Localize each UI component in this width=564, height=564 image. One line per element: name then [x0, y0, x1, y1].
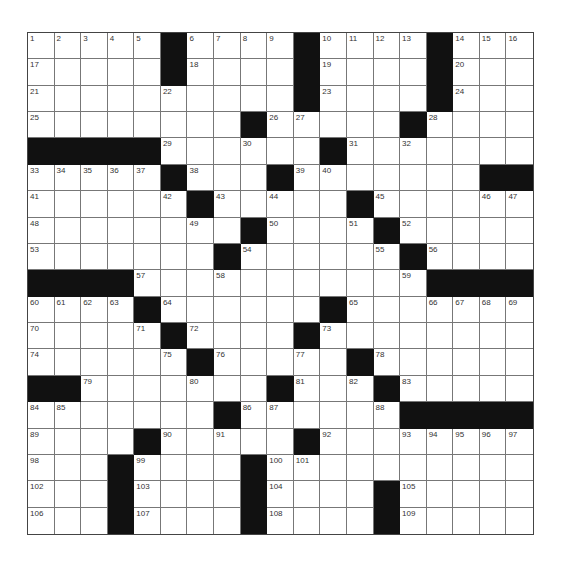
grid-cell[interactable]: [55, 244, 82, 270]
grid-cell[interactable]: [214, 165, 241, 191]
grid-cell[interactable]: 71: [134, 323, 161, 349]
grid-cell[interactable]: 89: [28, 429, 55, 455]
grid-cell[interactable]: [400, 455, 427, 481]
grid-cell[interactable]: [81, 244, 108, 270]
grid-cell[interactable]: [506, 481, 533, 507]
grid-cell[interactable]: [453, 323, 480, 349]
grid-cell[interactable]: [320, 455, 347, 481]
grid-cell[interactable]: [55, 112, 82, 138]
grid-cell[interactable]: 93: [400, 429, 427, 455]
grid-cell[interactable]: [294, 244, 321, 270]
grid-cell[interactable]: [453, 112, 480, 138]
grid-cell[interactable]: [214, 376, 241, 402]
grid-cell[interactable]: 81: [294, 376, 321, 402]
grid-cell[interactable]: [427, 138, 454, 164]
grid-cell[interactable]: [453, 218, 480, 244]
grid-cell[interactable]: [480, 86, 507, 112]
grid-cell[interactable]: [267, 244, 294, 270]
grid-cell[interactable]: 33: [28, 165, 55, 191]
grid-cell[interactable]: [320, 508, 347, 534]
grid-cell[interactable]: [453, 455, 480, 481]
grid-cell[interactable]: [294, 270, 321, 296]
grid-cell[interactable]: [108, 402, 135, 428]
grid-cell[interactable]: 109: [400, 508, 427, 534]
grid-cell[interactable]: [108, 376, 135, 402]
grid-cell[interactable]: 88: [374, 402, 401, 428]
grid-cell[interactable]: 24: [453, 86, 480, 112]
grid-cell[interactable]: [241, 191, 268, 217]
grid-cell[interactable]: [81, 481, 108, 507]
grid-cell[interactable]: 44: [267, 191, 294, 217]
grid-cell[interactable]: [241, 86, 268, 112]
grid-cell[interactable]: [81, 86, 108, 112]
grid-cell[interactable]: 92: [320, 429, 347, 455]
grid-cell[interactable]: [453, 508, 480, 534]
grid-cell[interactable]: [427, 349, 454, 375]
grid-cell[interactable]: [374, 138, 401, 164]
grid-cell[interactable]: [294, 481, 321, 507]
grid-cell[interactable]: [427, 218, 454, 244]
grid-cell[interactable]: 40: [320, 165, 347, 191]
grid-cell[interactable]: [108, 59, 135, 85]
grid-cell[interactable]: [214, 86, 241, 112]
grid-cell[interactable]: 67: [453, 297, 480, 323]
grid-cell[interactable]: [506, 508, 533, 534]
grid-cell[interactable]: [506, 455, 533, 481]
grid-cell[interactable]: 53: [28, 244, 55, 270]
grid-cell[interactable]: 8: [241, 33, 268, 59]
grid-cell[interactable]: [427, 165, 454, 191]
grid-cell[interactable]: 38: [187, 165, 214, 191]
grid-cell[interactable]: [267, 323, 294, 349]
grid-cell[interactable]: [320, 349, 347, 375]
grid-cell[interactable]: [267, 59, 294, 85]
grid-cell[interactable]: [267, 86, 294, 112]
grid-cell[interactable]: [187, 455, 214, 481]
grid-cell[interactable]: 36: [108, 165, 135, 191]
grid-cell[interactable]: [55, 86, 82, 112]
grid-cell[interactable]: 73: [320, 323, 347, 349]
grid-cell[interactable]: 28: [427, 112, 454, 138]
grid-cell[interactable]: [267, 429, 294, 455]
grid-cell[interactable]: [187, 138, 214, 164]
grid-cell[interactable]: [506, 323, 533, 349]
grid-cell[interactable]: 99: [134, 455, 161, 481]
grid-cell[interactable]: 69: [506, 297, 533, 323]
grid-cell[interactable]: [480, 138, 507, 164]
grid-cell[interactable]: [294, 138, 321, 164]
grid-cell[interactable]: 43: [214, 191, 241, 217]
grid-cell[interactable]: [81, 218, 108, 244]
grid-cell[interactable]: [267, 297, 294, 323]
grid-cell[interactable]: [214, 297, 241, 323]
grid-cell[interactable]: [161, 376, 188, 402]
grid-cell[interactable]: 49: [187, 218, 214, 244]
grid-cell[interactable]: 60: [28, 297, 55, 323]
grid-cell[interactable]: [241, 429, 268, 455]
grid-cell[interactable]: [267, 270, 294, 296]
grid-cell[interactable]: [347, 455, 374, 481]
grid-cell[interactable]: [55, 349, 82, 375]
grid-cell[interactable]: [241, 323, 268, 349]
grid-cell[interactable]: [320, 244, 347, 270]
grid-cell[interactable]: [241, 376, 268, 402]
grid-cell[interactable]: 35: [81, 165, 108, 191]
grid-cell[interactable]: [108, 218, 135, 244]
grid-cell[interactable]: [241, 297, 268, 323]
grid-cell[interactable]: 37: [134, 165, 161, 191]
grid-cell[interactable]: 63: [108, 297, 135, 323]
grid-cell[interactable]: 10: [320, 33, 347, 59]
grid-cell[interactable]: 64: [161, 297, 188, 323]
grid-cell[interactable]: [374, 297, 401, 323]
grid-cell[interactable]: [108, 349, 135, 375]
grid-cell[interactable]: 66: [427, 297, 454, 323]
grid-cell[interactable]: 48: [28, 218, 55, 244]
grid-cell[interactable]: [427, 508, 454, 534]
grid-cell[interactable]: [214, 323, 241, 349]
grid-cell[interactable]: 1: [28, 33, 55, 59]
grid-cell[interactable]: [347, 429, 374, 455]
grid-cell[interactable]: [214, 112, 241, 138]
grid-cell[interactable]: 3: [81, 33, 108, 59]
grid-cell[interactable]: 86: [241, 402, 268, 428]
grid-cell[interactable]: 83: [400, 376, 427, 402]
grid-cell[interactable]: 50: [267, 218, 294, 244]
grid-cell[interactable]: [506, 376, 533, 402]
